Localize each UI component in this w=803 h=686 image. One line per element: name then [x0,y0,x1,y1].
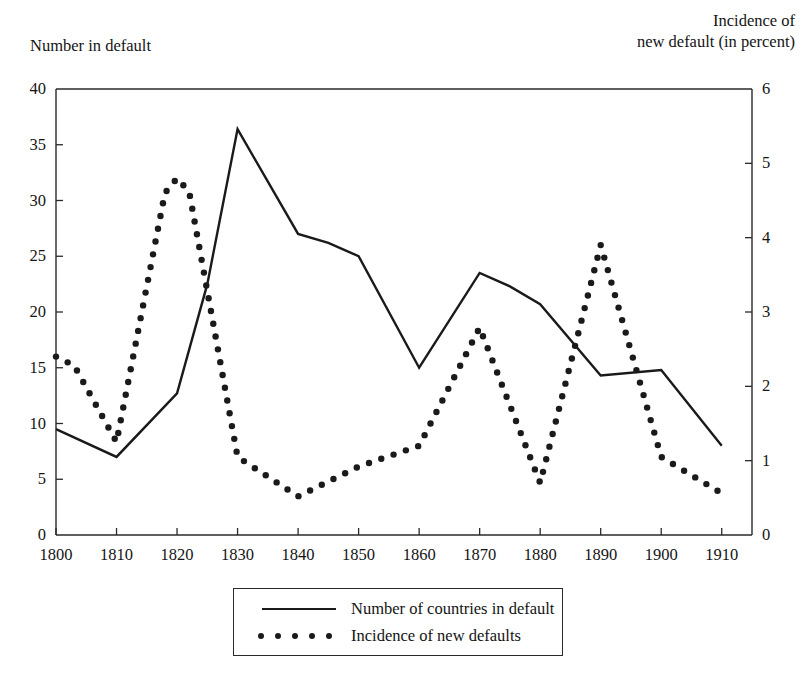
chart-figure: Number in default Incidence ofnew defaul… [0,0,803,686]
x-tick-label: 1910 [705,545,738,565]
legend-dotted-line-icon [256,628,342,644]
y-tick-label-right: 6 [762,79,770,99]
y-tick-label-right: 0 [762,525,770,545]
y-tick-label-right: 4 [762,228,770,248]
y-tick-label-right: 2 [762,376,770,396]
axes-frame [56,89,752,535]
y-tick-label-left: 25 [8,246,46,266]
chart-legend: Number of countries in defaultIncidence … [233,588,563,656]
y-tick-label-left: 35 [8,135,46,155]
x-tick-label: 1820 [161,545,194,565]
y-tick-label-left: 30 [8,191,46,211]
legend-label: Number of countries in default [351,599,554,619]
y-tick-label-left: 5 [8,469,46,489]
x-tick-label: 1870 [463,545,496,565]
y-tick-label-left: 40 [8,79,46,99]
legend-items: Number of countries in defaultIncidence … [256,598,554,647]
data-series [53,129,722,499]
y-tick-label-right: 5 [762,153,770,173]
x-tick-label: 1900 [645,545,678,565]
y-tick-label-left: 10 [8,414,46,434]
x-tick-label: 1830 [221,545,254,565]
plot-area [0,0,803,686]
y-tick-label-left: 20 [8,302,46,322]
legend-label: Incidence of new defaults [351,626,521,646]
x-tick-label: 1890 [584,545,617,565]
legend-solid-line-icon [256,601,342,617]
y-tick-label-left: 15 [8,358,46,378]
y-tick-label-right: 1 [762,451,770,471]
y-tick-label-right: 3 [762,302,770,322]
legend-item: Number of countries in default [256,598,554,620]
series-line-0 [56,129,722,457]
x-tick-label: 1880 [524,545,557,565]
x-tick-label: 1800 [40,545,73,565]
y-tick-label-left: 0 [8,525,46,545]
x-tick-label: 1840 [282,545,315,565]
x-tick-label: 1810 [100,545,133,565]
legend-item: Incidence of new defaults [256,625,554,647]
x-tick-label: 1860 [403,545,436,565]
x-tick-label: 1850 [342,545,375,565]
series-dotted-1 [53,178,721,500]
